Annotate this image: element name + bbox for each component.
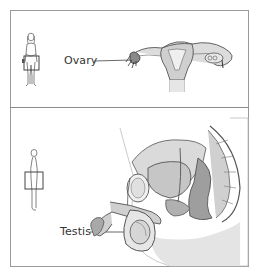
female-figure-icon (18, 32, 44, 88)
pelvic-region-box (25, 172, 43, 189)
male-figure-side-icon (22, 148, 46, 214)
male-pelvis-sagittal-illustration (90, 118, 248, 268)
testis-label: Testis (60, 225, 91, 238)
uterus-ovaries-illustration (92, 30, 242, 90)
